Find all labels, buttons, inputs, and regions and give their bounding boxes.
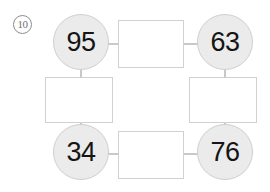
answer-box-left[interactable] bbox=[45, 77, 113, 123]
node-value-bottom-left: 34 bbox=[66, 139, 95, 166]
problem-number-marker: 10 bbox=[13, 15, 32, 34]
node-circle-bottom-left: 34 bbox=[53, 124, 109, 180]
node-value-top-right: 63 bbox=[210, 29, 239, 56]
answer-box-right[interactable] bbox=[189, 77, 257, 123]
connector-top-box-to-top-right bbox=[183, 43, 198, 45]
node-circle-top-left: 95 bbox=[53, 14, 109, 70]
problem-number-label: 10 bbox=[18, 19, 28, 30]
node-value-top-left: 95 bbox=[66, 29, 95, 56]
answer-box-top[interactable] bbox=[118, 20, 184, 68]
node-value-bottom-right: 76 bbox=[210, 139, 239, 166]
connector-bottom-box-to-bottom-right bbox=[183, 153, 198, 155]
worksheet-canvas: 10 95 63 34 76 bbox=[0, 0, 270, 192]
node-circle-bottom-right: 76 bbox=[197, 124, 253, 180]
answer-box-bottom[interactable] bbox=[118, 131, 184, 179]
node-circle-top-right: 63 bbox=[197, 14, 253, 70]
